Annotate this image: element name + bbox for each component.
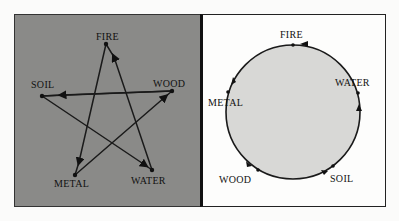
label-wood-left: WOOD (153, 78, 185, 89)
fire-node (291, 43, 295, 47)
label-wood-right: WOOD (219, 174, 251, 185)
metal-node (226, 90, 230, 94)
soil-node (40, 94, 44, 98)
label-water-left: WATER (131, 175, 166, 186)
label-metal-left: METAL (54, 178, 89, 189)
label-fire-right: FIRE (280, 29, 303, 40)
water-node (356, 91, 360, 95)
label-soil-left: SOIL (31, 79, 54, 90)
pentagram-nodes (40, 42, 174, 177)
wood-node (256, 168, 260, 172)
generating-circle (226, 45, 360, 179)
five-elements-diagram: FIRE WOOD WATER METAL SOIL FIRE WATER SO… (0, 0, 399, 221)
fire-node (104, 42, 108, 46)
metal-node (73, 173, 77, 177)
pentagram-edges (42, 44, 172, 175)
label-fire-left: FIRE (96, 31, 119, 42)
label-water-right: WATER (335, 77, 370, 88)
water-node (150, 168, 154, 172)
wood-node (170, 89, 174, 93)
soil-node (331, 164, 335, 168)
label-soil-right: SOIL (330, 173, 353, 184)
label-metal-right: METAL (208, 97, 243, 108)
